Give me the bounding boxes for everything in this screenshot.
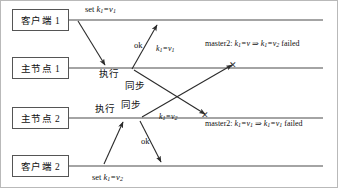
message-label-ok-top: ok [134, 41, 143, 50]
annotation-bottom-lhs-eq: =v [241, 119, 250, 128]
ok-text-bottom: ok [141, 136, 150, 146]
arrow-sync-top [134, 70, 205, 114]
message-label-set-k1-v2: set k1=v2 [92, 173, 123, 182]
sync-value-label-bottom: k1=v2 [159, 113, 178, 121]
annotation-top-lhs-eq: =v [241, 39, 250, 48]
value-bottom: =v [110, 172, 120, 182]
sync-eq-bottom: =v [166, 112, 175, 121]
annotation-bottom-lhs-val-sub: 1 [250, 122, 253, 128]
annotation-top-suffix: failed [279, 39, 299, 48]
participant-box-master1[interactable]: 主节点 1 [12, 57, 69, 79]
annotation-bottom-suffix: failed [282, 119, 302, 128]
arrow-set-k1-v2 [104, 122, 123, 164]
annotation-top-prefix: master2: [205, 39, 235, 48]
value-subscript-bottom: 2 [120, 176, 123, 182]
participant-box-client1[interactable]: 客户端 1 [12, 9, 69, 31]
annotation-top-rhs-eq: =v [267, 39, 276, 48]
participant-label-client2: 客户端 2 [21, 159, 60, 173]
annotation-bottom-arrow: ⇒ [255, 119, 262, 128]
annotation-top-arrow: ⇒ [252, 39, 259, 48]
participant-label-master1: 主节点 1 [21, 61, 60, 75]
annotation-top-failure: master2: k1=v ⇒ k1=v2 failed [205, 40, 300, 48]
diagram-frame: 客户端 1 主节点 1 主节点 2 客户端 2 set k1=v1 ok 执行 … [0, 0, 338, 188]
exec-text-top: 执行 [99, 69, 119, 79]
sync-text-bottom: 同步 [121, 100, 141, 110]
set-keyword-bottom: set [92, 172, 104, 182]
value-top: =v [103, 4, 113, 14]
sync-eq-top: =v [163, 44, 172, 53]
sync-val-sub-bottom: 2 [175, 115, 178, 121]
message-label-sync-top: 同步 [125, 82, 145, 92]
set-keyword-top: set [85, 4, 97, 14]
message-label-ok-bottom: ok [141, 137, 150, 146]
sync-value-label-top: k1=v1 [156, 45, 175, 53]
participant-label-client1: 客户端 1 [21, 13, 60, 27]
message-label-set-k1-v1: set k1=v1 [85, 5, 116, 14]
x-mark-bottom: ✕ [229, 61, 237, 70]
message-label-exec-bottom: 执行 [95, 105, 115, 115]
value-subscript-top: 1 [113, 8, 116, 14]
x-mark-bottom-glyph: ✕ [229, 60, 237, 70]
message-label-exec-top: 执行 [99, 70, 119, 80]
arrow-set-k1-v1 [78, 21, 105, 65]
arrow-sync-bottom [142, 65, 232, 117]
participant-label-master2: 主节点 2 [21, 111, 60, 125]
message-label-sync-bottom: 同步 [121, 101, 141, 111]
annotation-bottom-rhs-eq: =v [270, 119, 279, 128]
exec-text-bottom: 执行 [95, 104, 115, 114]
annotation-bottom-prefix: master2: [205, 119, 235, 128]
annotation-bottom-failure: master2: k1=v1 ⇒ k1=v1 failed [205, 120, 303, 128]
sync-val-sub-top: 1 [172, 47, 175, 53]
participant-box-master2[interactable]: 主节点 2 [12, 107, 69, 129]
ok-text-top: ok [134, 40, 143, 50]
sync-text-top: 同步 [125, 81, 145, 91]
participant-box-client2[interactable]: 客户端 2 [12, 155, 69, 177]
